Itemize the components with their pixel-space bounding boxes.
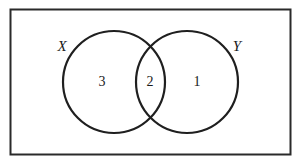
region-only-x-count: 3 [99, 75, 106, 89]
set-y-label: Y [233, 39, 241, 54]
region-only-y-count: 1 [194, 75, 201, 89]
set-x-label: X [57, 39, 66, 54]
region-x-and-y-count: 2 [147, 75, 154, 89]
venn-diagram: X Y 3 2 1 [0, 0, 299, 161]
